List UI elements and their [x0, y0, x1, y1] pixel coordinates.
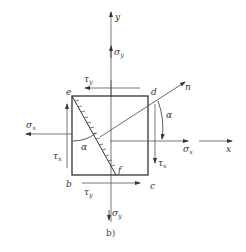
corner-c-label: c — [150, 181, 155, 191]
tau-x-right-label: τx — [158, 158, 167, 170]
stress-element-diagram: y σy τy n α α — [0, 0, 246, 252]
angle-alpha-label: α — [166, 110, 172, 120]
inner-angle-arc — [73, 133, 96, 141]
stress-element-square — [72, 96, 148, 175]
tau-x-left-label: τx — [53, 151, 62, 163]
inner-angle-label: α — [81, 142, 87, 152]
y-axis-label: y — [114, 12, 121, 22]
normal-n-label: n — [185, 82, 191, 92]
corner-b-label: b — [66, 179, 72, 189]
sigma-x-left-label: σx — [26, 120, 36, 132]
angle-arc — [158, 101, 163, 139]
normal-n-arrow — [100, 82, 185, 137]
sigma-y-bottom-label: σy — [112, 208, 122, 220]
figure-caption: b) — [106, 228, 115, 238]
x-axis-label: x — [226, 144, 231, 154]
corner-d-label: d — [151, 87, 157, 97]
tau-y-top-label: τy — [84, 74, 93, 86]
corner-e-label: e — [66, 87, 71, 97]
corner-f-label: f — [117, 165, 123, 175]
tau-y-bottom-label: τy — [84, 187, 93, 199]
sigma-x-right-label: σx — [183, 144, 193, 156]
inclined-plane — [72, 96, 116, 175]
sigma-y-top-label: σy — [114, 47, 124, 59]
